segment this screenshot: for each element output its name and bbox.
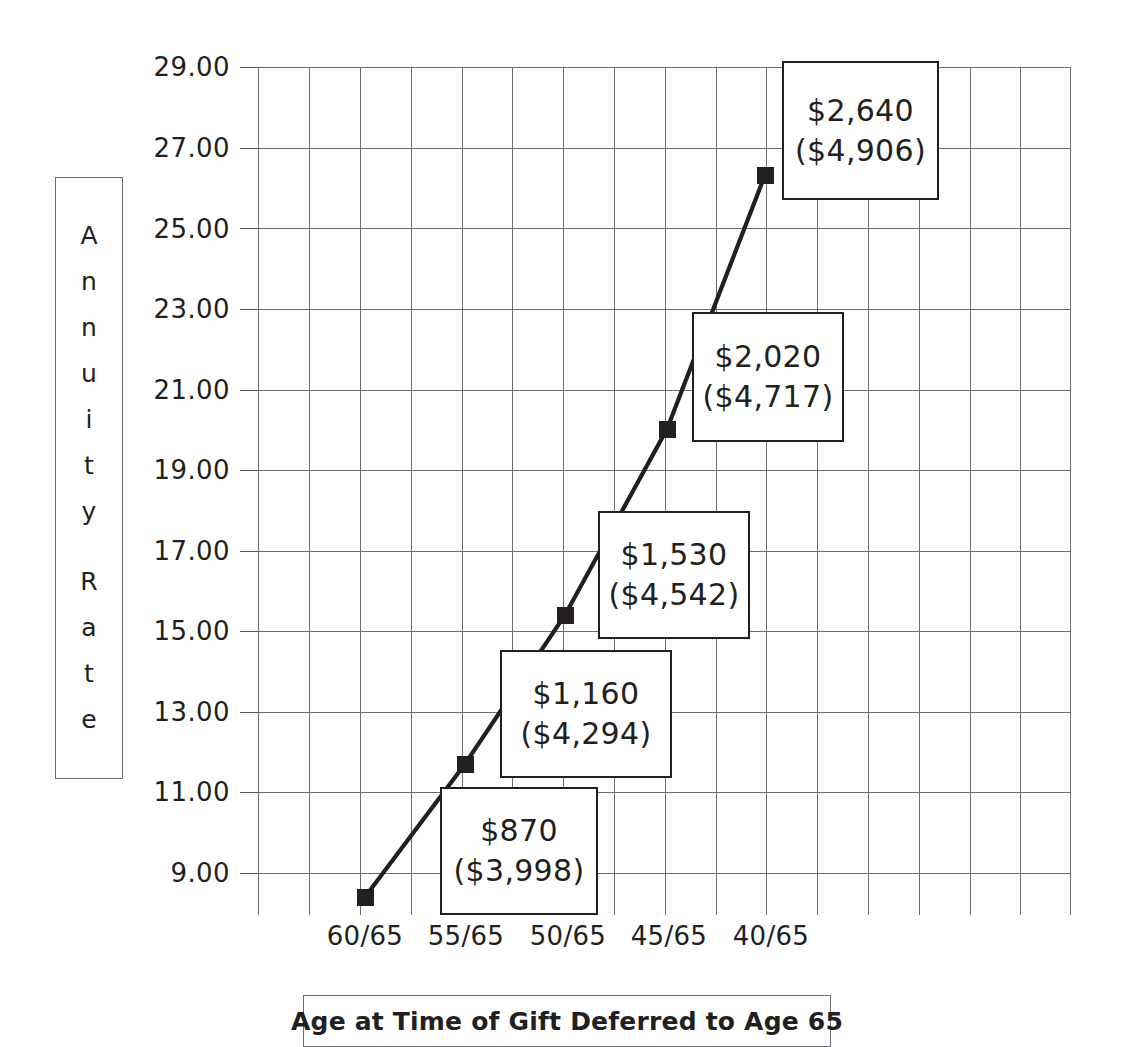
- y-title-char: t: [84, 651, 94, 697]
- data-label-box: $2,640 ($4,906): [782, 61, 939, 200]
- y-tick-mark: [240, 873, 258, 874]
- gridline-horizontal: [258, 67, 1070, 68]
- y-tick-mark: [240, 631, 258, 632]
- y-tick-mark: [240, 67, 258, 68]
- y-tick-mark: [240, 792, 258, 793]
- y-tick-label: 15.00: [80, 618, 230, 644]
- y-tick-mark: [240, 309, 258, 310]
- y-tick-label: 13.00: [80, 699, 230, 725]
- y-tick-label: 29.00: [80, 54, 230, 80]
- y-tick-label: 9.00: [80, 860, 230, 886]
- gridline-vertical: [258, 67, 259, 873]
- gridline-vertical: [258, 873, 259, 915]
- data-label-box: $1,530 ($4,542): [598, 511, 750, 639]
- y-tick-label: 11.00: [80, 779, 230, 805]
- gridline-vertical: [970, 873, 971, 915]
- gridline-horizontal: [258, 390, 1070, 391]
- gridline-vertical: [360, 67, 361, 873]
- data-label-deduction: ($4,542): [609, 575, 740, 615]
- gridline-horizontal: [258, 228, 1070, 229]
- gridline-vertical: [1070, 873, 1071, 915]
- gridline-vertical: [716, 67, 717, 873]
- x-axis-title-text: Age at Time of Gift Deferred to Age 65: [291, 1007, 843, 1036]
- gridline-vertical: [1070, 67, 1071, 873]
- y-title-char: y: [82, 489, 97, 535]
- y-tick-label: 23.00: [80, 296, 230, 322]
- gridline-vertical: [309, 67, 310, 873]
- gridline-vertical: [462, 67, 463, 873]
- y-tick-label: 27.00: [80, 135, 230, 161]
- data-label-annuity: $870: [480, 811, 558, 851]
- data-label-annuity: $1,160: [533, 674, 640, 714]
- gridline-vertical: [309, 873, 310, 915]
- data-label-box: $2,020 ($4,717): [692, 312, 844, 442]
- gridline-vertical: [716, 873, 717, 915]
- y-tick-mark: [240, 148, 258, 149]
- x-tick-label: 50/65: [513, 922, 623, 950]
- gridline-vertical: [970, 67, 971, 873]
- y-tick-label: 21.00: [80, 377, 230, 403]
- gridline-vertical: [360, 873, 361, 915]
- x-axis-title: Age at Time of Gift Deferred to Age 65: [303, 995, 831, 1047]
- data-label-box: $870 ($3,998): [440, 787, 598, 915]
- y-title-char: i: [86, 397, 93, 443]
- gridline-vertical: [919, 873, 920, 915]
- gridline-vertical: [817, 873, 818, 915]
- gridline-horizontal: [258, 148, 1070, 149]
- x-tick-label: 55/65: [411, 922, 521, 950]
- y-title-char: R: [80, 559, 97, 605]
- y-tick-mark: [240, 470, 258, 471]
- data-label-annuity: $2,640: [807, 91, 914, 131]
- gridline-horizontal: [258, 309, 1070, 310]
- x-tick-label: 60/65: [310, 922, 420, 950]
- gridline-vertical: [766, 873, 767, 915]
- data-label-deduction: ($4,294): [521, 714, 652, 754]
- gridline-vertical: [411, 873, 412, 915]
- y-tick-mark: [240, 551, 258, 552]
- gridline-vertical: [614, 873, 615, 915]
- y-tick-label: 19.00: [80, 457, 230, 483]
- gridline-horizontal: [258, 792, 1070, 793]
- y-tick-mark: [240, 712, 258, 713]
- data-label-deduction: ($4,717): [703, 377, 834, 417]
- data-label-annuity: $2,020: [715, 337, 822, 377]
- gridline-vertical: [1020, 873, 1021, 915]
- data-label-annuity: $1,530: [621, 535, 728, 575]
- x-tick-label: 40/65: [716, 922, 826, 950]
- gridline-vertical: [665, 873, 666, 915]
- gridline-vertical: [411, 67, 412, 873]
- y-tick-mark: [240, 228, 258, 229]
- y-tick-label: 25.00: [80, 216, 230, 242]
- data-label-deduction: ($4,906): [795, 131, 926, 171]
- gridline-vertical: [1020, 67, 1021, 873]
- gridline-horizontal: [258, 470, 1070, 471]
- data-label-box: $1,160 ($4,294): [500, 650, 672, 778]
- data-label-deduction: ($3,998): [454, 851, 585, 891]
- gridline-vertical: [868, 873, 869, 915]
- x-tick-label: 45/65: [614, 922, 724, 950]
- y-tick-label: 17.00: [80, 538, 230, 564]
- plot-underhang: [258, 873, 1070, 915]
- gridline-vertical: [766, 67, 767, 873]
- y-tick-mark: [240, 390, 258, 391]
